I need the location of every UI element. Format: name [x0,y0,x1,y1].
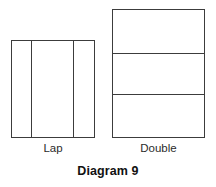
figure-lap [11,40,95,138]
double-divider-1 [113,53,204,54]
figure-label-lap: Lap [11,141,95,155]
lap-divider-1 [31,41,32,137]
figure-label-double: Double [112,141,205,155]
figure-double [112,9,205,138]
lap-divider-2 [73,41,74,137]
diagram-canvas: Lap Double Diagram 9 [0,0,216,187]
double-divider-2 [113,94,204,95]
diagram-caption: Diagram 9 [0,163,216,179]
